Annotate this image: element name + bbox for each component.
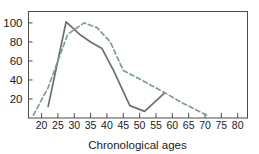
x-axis-title: Chronological ages [88, 139, 187, 151]
x-axis-tick-label: 60 [166, 119, 178, 131]
x-axis-tick-label: 50 [134, 119, 146, 131]
x-axis-tick-label: 40 [101, 119, 113, 131]
x-axis-tick-label: 65 [183, 119, 195, 131]
x-axis-tick-label: 30 [68, 119, 80, 131]
y-axis-tick-label: 20 [10, 93, 23, 105]
x-axis-tick-label: 70 [199, 119, 211, 131]
y-axis-tick-label: 60 [10, 55, 23, 67]
x-axis-tick-label: 75 [216, 119, 228, 131]
chart-container: 20406080100 20253035404550556065707580 C… [0, 0, 259, 154]
y-axis-tick-label: 80 [10, 36, 23, 48]
y-axis-tick-label: 40 [10, 74, 23, 86]
x-axis-tick-label: 80 [232, 119, 244, 131]
line-chart: 20406080100 20253035404550556065707580 C… [0, 0, 259, 154]
x-axis-tick-label: 55 [150, 119, 162, 131]
y-axis-tick-label: 100 [3, 17, 22, 29]
x-axis-tick-label: 20 [36, 119, 48, 131]
x-axis-tick-label: 35 [85, 119, 97, 131]
x-axis-tick-label: 45 [117, 119, 129, 131]
x-axis-tick-label: 25 [52, 119, 64, 131]
